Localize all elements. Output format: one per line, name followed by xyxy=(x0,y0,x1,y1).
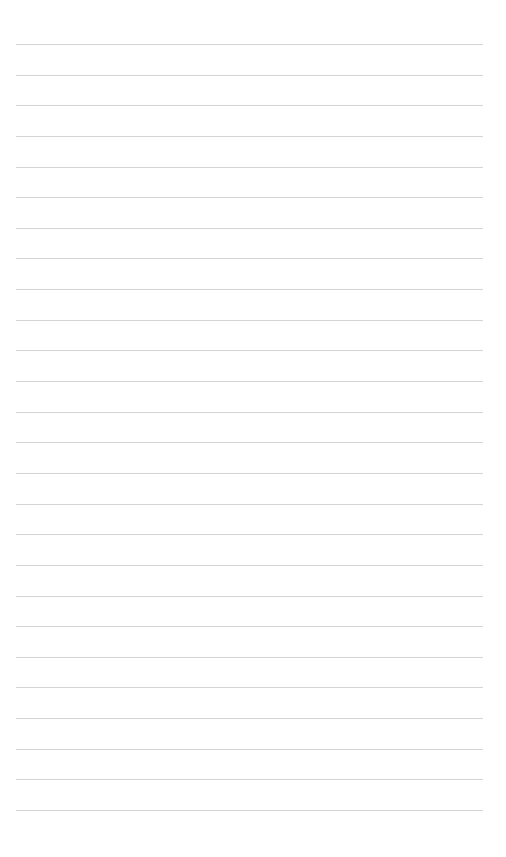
ruled-line xyxy=(16,350,483,351)
ruled-line xyxy=(16,442,483,443)
ruled-line xyxy=(16,289,483,290)
ruled-line xyxy=(16,136,483,137)
ruled-line xyxy=(16,258,483,259)
ruled-line xyxy=(16,228,483,229)
ruled-line xyxy=(16,105,483,106)
ruled-line xyxy=(16,534,483,535)
ruled-line xyxy=(16,718,483,719)
ruled-line xyxy=(16,320,483,321)
ruled-line xyxy=(16,167,483,168)
ruled-line xyxy=(16,412,483,413)
ruled-line xyxy=(16,565,483,566)
ruled-line xyxy=(16,810,483,811)
ruled-line xyxy=(16,687,483,688)
ruled-line xyxy=(16,504,483,505)
ruled-line xyxy=(16,44,483,45)
ruled-line xyxy=(16,779,483,780)
ruled-line xyxy=(16,657,483,658)
ruled-line xyxy=(16,75,483,76)
ruled-line xyxy=(16,473,483,474)
ruled-line xyxy=(16,596,483,597)
ruled-line xyxy=(16,197,483,198)
ruled-line xyxy=(16,626,483,627)
lined-paper-page xyxy=(0,0,506,857)
ruled-line xyxy=(16,749,483,750)
ruled-line xyxy=(16,381,483,382)
